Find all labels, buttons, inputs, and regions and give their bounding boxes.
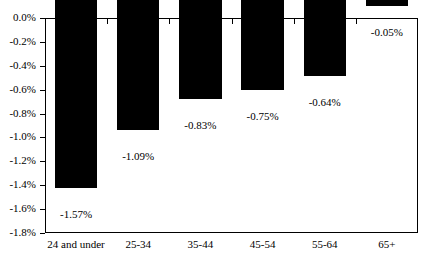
x-axis-category-label: 55-64 — [294, 238, 356, 251]
y-axis-tick-label: -1.4% — [9, 177, 36, 192]
bar[interactable] — [241, 0, 283, 90]
bar[interactable] — [304, 0, 346, 76]
x-axis-tick-mark — [232, 18, 233, 24]
y-axis-tick-label: -1.6% — [9, 201, 36, 216]
y-axis-tick-label: -1.0% — [9, 129, 36, 144]
x-axis-tick-mark — [356, 18, 357, 24]
bar-value-label: -0.75% — [233, 110, 291, 123]
y-axis-tick-label: 0.0% — [13, 10, 36, 25]
x-axis-category-label: 25-34 — [107, 238, 169, 251]
bar-value-label: -0.83% — [171, 119, 229, 132]
y-axis-tick-label: -0.8% — [9, 106, 36, 121]
bar-value-label: -1.57% — [47, 208, 105, 221]
bar-value-label: -1.09% — [109, 150, 167, 163]
bar[interactable] — [366, 0, 408, 6]
bar-value-label: -0.64% — [296, 96, 354, 109]
bar-group — [107, 0, 169, 215]
bar-value-label: -0.05% — [358, 26, 416, 39]
bar[interactable] — [55, 0, 97, 188]
x-axis-category-label: 24 and under — [45, 238, 107, 251]
bar[interactable] — [179, 0, 221, 99]
bar[interactable] — [117, 0, 159, 130]
bar-group — [169, 0, 231, 215]
y-axis-tick-label: -0.2% — [9, 34, 36, 49]
y-axis-tick-label: -0.6% — [9, 82, 36, 97]
x-axis-tick-mark — [294, 18, 295, 24]
y-axis-tick-label: -1.2% — [9, 153, 36, 168]
x-axis-tick-mark — [107, 18, 108, 24]
x-axis-category-label: 35-44 — [169, 238, 231, 251]
x-axis-category-label: 45-54 — [232, 238, 294, 251]
chart-figure: 0.0%-0.2%-0.4%-0.6%-0.8%-1.0%-1.2%-1.4%-… — [0, 0, 433, 266]
bar-group — [45, 0, 107, 215]
bar-group — [232, 0, 294, 215]
y-axis-tick-label: -1.8% — [9, 225, 36, 240]
y-axis-tick-label: -0.4% — [9, 58, 36, 73]
y-axis-tick-mark — [40, 233, 45, 234]
x-axis-tick-mark — [169, 18, 170, 24]
x-axis-category-label: 65+ — [356, 238, 418, 251]
